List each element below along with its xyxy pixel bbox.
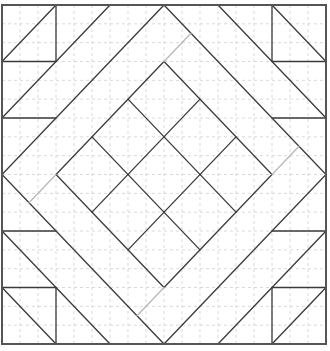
quilt-canvas	[2, 5, 326, 344]
light-connector-line	[272, 146, 299, 174]
light-connector-line	[164, 33, 191, 61]
seam-line	[2, 5, 56, 62]
seam-line	[272, 5, 326, 62]
light-connector-line	[137, 288, 164, 316]
light-connector-line	[29, 175, 56, 203]
background-grid	[2, 5, 326, 344]
seam-line	[2, 288, 56, 345]
quilt-block-diagram	[2, 5, 326, 344]
seam-line	[272, 288, 326, 345]
